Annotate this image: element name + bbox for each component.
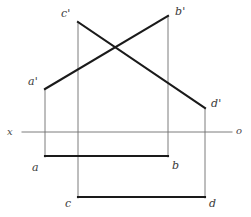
point-label-d-prime: d' — [211, 98, 221, 109]
axis-label-o: o — [236, 126, 242, 136]
line-a-prime-b-prime — [45, 16, 168, 89]
point-label-a-prime: a' — [28, 76, 38, 87]
axis-label-x: x — [7, 127, 13, 137]
object-lines-group — [45, 16, 205, 197]
projector-lines-group — [45, 16, 205, 198]
point-label-a: a — [32, 162, 39, 173]
point-label-c-prime: c' — [61, 8, 71, 19]
point-label-c: c — [65, 198, 71, 209]
technical-drawing-canvas: a' b' c' d' a b c d x o — [0, 0, 251, 217]
point-label-b: b — [172, 160, 179, 171]
line-c-prime-d-prime — [78, 22, 205, 108]
point-label-b-prime: b' — [175, 6, 185, 17]
point-label-d: d — [209, 198, 216, 209]
